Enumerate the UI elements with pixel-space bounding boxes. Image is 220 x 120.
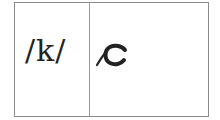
cursive-c-icon: [95, 43, 129, 67]
phonics-card: /k/: [14, 2, 209, 117]
phoneme-label: /k/: [25, 33, 66, 69]
card-divider: [89, 3, 90, 116]
